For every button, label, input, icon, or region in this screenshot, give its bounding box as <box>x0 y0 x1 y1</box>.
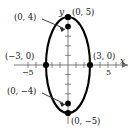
point-label-upper-focus: (0, 4) <box>14 13 36 22</box>
point-label-lower-focus: (0, −4) <box>7 87 36 96</box>
point-top-vertex <box>65 14 71 20</box>
x-axis-label: x <box>120 57 125 66</box>
point-upper-focus <box>65 24 71 30</box>
x-tick-label-negative-five: −5 <box>22 69 34 77</box>
point-label-right-vertex: (3, 0) <box>93 52 115 61</box>
point-left-vertex <box>43 62 49 68</box>
ellipse-graph-figure: x y −5 5 (0, 5) (0, 4) (3, 0) (−3, 0) (0… <box>0 0 139 134</box>
point-lower-focus <box>65 101 71 107</box>
point-label-left-vertex: (−3, 0) <box>5 52 34 61</box>
point-label-top-vertex: (0, 5) <box>72 8 94 17</box>
point-right-vertex <box>87 62 93 68</box>
x-tick-label-positive-five: 5 <box>106 69 111 77</box>
leader-line-lower-focus <box>42 93 63 103</box>
y-axis-label: y <box>59 8 64 17</box>
point-label-bottom-vertex: (0, −5) <box>71 117 100 126</box>
